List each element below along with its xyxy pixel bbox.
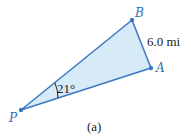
- figure-caption: (a): [87, 119, 101, 134]
- label-a: A: [155, 61, 165, 75]
- angle-p-label: 21°: [57, 81, 75, 96]
- point-b: [130, 18, 134, 22]
- side-ab-length: 6.0 mi: [147, 34, 181, 49]
- point-a: [149, 66, 153, 70]
- triangle-diagram: B A P 6.0 mi 21° (a): [0, 0, 191, 138]
- point-p: [19, 108, 23, 112]
- triangle-pab: [21, 20, 151, 110]
- label-p: P: [8, 111, 18, 125]
- label-b: B: [134, 6, 144, 20]
